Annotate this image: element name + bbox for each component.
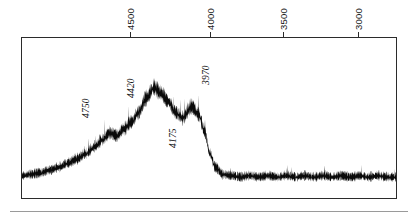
axis-tick-label: 4000 xyxy=(205,8,216,30)
canvas-background xyxy=(0,0,418,220)
axis-tick-label: 3500 xyxy=(278,8,289,30)
axis-tick-label: 3000 xyxy=(353,8,364,30)
peak-annotation-3970: 3970 xyxy=(201,65,211,86)
axis-tick-label: 4500 xyxy=(125,8,136,30)
peak-annotation-4750: 4750 xyxy=(81,98,91,118)
peak-annotation-4175: 4175 xyxy=(168,128,178,148)
spectrum-figure: 4500 4000 3500 3000 4750 4420 4175 3970 xyxy=(0,0,418,220)
spectrum-plot: 4500 4000 3500 3000 4750 4420 4175 3970 xyxy=(0,0,418,220)
peak-annotation-4420: 4420 xyxy=(126,78,136,98)
